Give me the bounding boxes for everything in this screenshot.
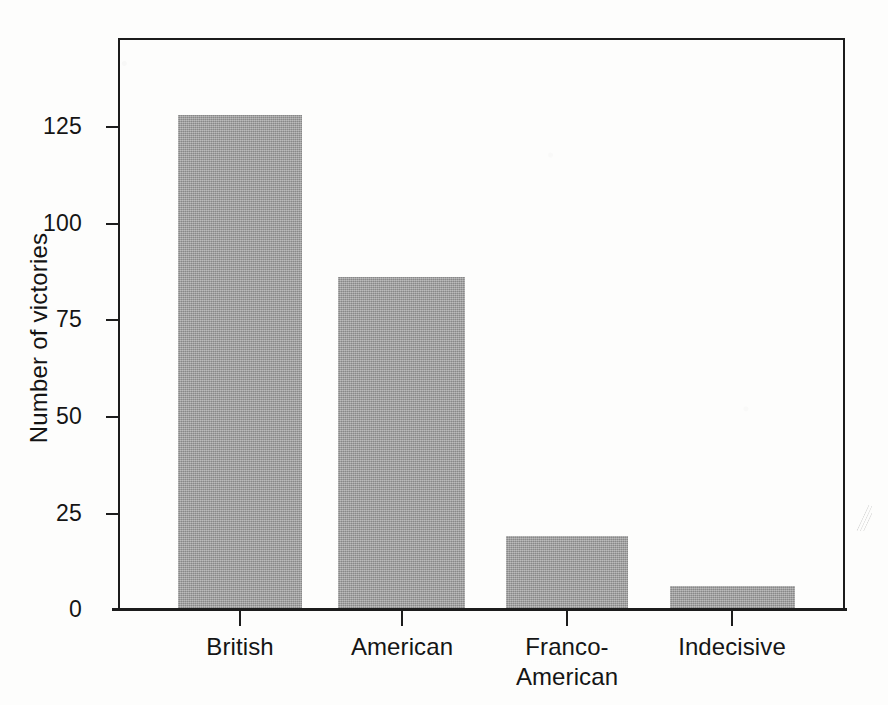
y-tick-label-100: 100 (20, 212, 82, 235)
x-tick-mark-british (239, 611, 241, 626)
bar-british (178, 115, 302, 609)
x-axis-baseline (112, 608, 847, 611)
x-tick-mark-american (401, 611, 403, 626)
y-tick-label-25: 25 (20, 502, 82, 525)
bar-indecisive (670, 586, 795, 609)
x-tick-mark-indecisive (731, 611, 733, 626)
y-tick-label-0: 0 (20, 598, 82, 621)
bar-franco-american (506, 536, 628, 609)
x-category-label-franco-american-line2: American (452, 662, 682, 692)
x-tick-mark-franco-american (566, 611, 568, 626)
y-tick-label-75: 75 (20, 308, 82, 331)
x-category-label-indecisive: Indecisive (617, 632, 847, 662)
figure-bar-chart: Number of victories 125 100 75 50 25 0 (0, 0, 888, 705)
bar-american (338, 277, 465, 609)
scan-speckle-artifact (856, 505, 872, 531)
x-category-label-indecisive-line1: Indecisive (617, 632, 847, 662)
y-tick-label-125: 125 (20, 115, 82, 138)
y-tick-label-50: 50 (20, 405, 82, 428)
